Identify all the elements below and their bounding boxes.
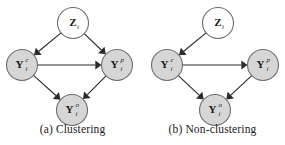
node-Z[interactable]: Zi [203,8,234,39]
figure-root: ZiYciYpiYoi (a) Clustering ZiYciYpiYoi (… [0,0,285,145]
arrow-head-icon [95,60,101,69]
node-Yc[interactable]: Yci [7,50,38,81]
node-subscript-Z: i [77,23,79,31]
panel-nonclustering: ZiYciYpiYoi (b) Non-clustering [140,0,285,145]
node-Yc[interactable]: Yci [152,50,183,81]
edge-Yp-to-Yo [226,76,251,100]
edge-Yc-to-Yo [34,75,61,99]
node-Yo[interactable]: Yoi [200,95,231,126]
node-label-Yo: Y [208,103,216,115]
node-label-Yp: Y [110,58,118,70]
node-Yo[interactable]: Yoi [57,95,88,126]
arrow-head-icon [34,48,42,56]
node-label-Z: Z [214,16,221,28]
node-superscript-Yp: p [266,56,271,64]
node-subscript-Yc: i [25,65,27,73]
node-superscript-Yo: o [76,101,80,109]
panel-clustering: ZiYciYpiYoi (a) Clustering [0,0,145,145]
node-subscript-Z: i [222,23,224,31]
edge-Z-to-Yc [34,33,61,55]
node-label-Yo: Y [65,103,73,115]
node-label-Yc: Y [15,58,23,70]
node-subscript-Yp: i [266,65,268,73]
arrow-head-icon [179,48,187,56]
edge-Yc-to-Yp [183,60,248,69]
node-subscript-Yo: i [75,110,77,118]
node-Yp[interactable]: Ypi [102,50,133,81]
edge-Z-to-Yc [179,33,206,55]
edge-Yc-to-Yo [178,76,203,100]
node-superscript-Yo: o [219,101,223,109]
node-Z[interactable]: Zi [58,8,89,39]
node-label-Yc: Y [160,58,168,70]
node-subscript-Yc: i [170,65,172,73]
node-superscript-Yp: p [120,56,125,64]
caption-nonclustering: (b) Non-clustering [140,123,285,135]
edge-Yp-to-Yo [83,76,106,99]
node-subscript-Yp: i [120,65,122,73]
node-label-Yp: Y [256,58,264,70]
node-Yp[interactable]: Ypi [248,50,279,81]
node-subscript-Yo: i [218,110,220,118]
node-label-Z: Z [69,16,76,28]
edge-Yc-to-Yp [38,60,102,69]
edge-Z-to-Yp [84,34,106,55]
caption-clustering: (a) Clustering [0,123,145,135]
arrow-head-icon [241,60,247,69]
